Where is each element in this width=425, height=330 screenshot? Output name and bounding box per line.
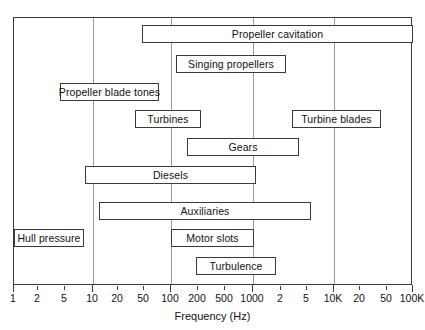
x-tick	[170, 285, 171, 292]
range-bar-label: Singing propellers	[188, 59, 274, 70]
range-bar: Turbines	[135, 110, 201, 128]
x-tick	[359, 286, 360, 290]
x-tick-label: 2	[277, 293, 283, 304]
x-tick-label: 5	[61, 293, 67, 304]
x-tick-label: 500	[215, 293, 233, 304]
x-axis-title: Frequency (Hz)	[0, 311, 425, 322]
range-bar-label: Propeller blade tones	[59, 87, 160, 98]
x-tick-label: 20	[353, 293, 365, 304]
x-tick	[306, 286, 307, 290]
x-tick-label: 1000	[240, 293, 263, 304]
x-tick	[224, 286, 225, 290]
gridline-10	[93, 18, 94, 284]
range-bar-label: Motor slots	[186, 233, 238, 244]
range-bar-label: Auxiliaries	[181, 206, 230, 217]
range-bar: Turbulence	[196, 257, 276, 275]
x-tick	[333, 285, 334, 292]
frequency-range-chart: Propeller cavitationSinging propellersPr…	[0, 0, 425, 330]
x-tick-label: 2	[34, 293, 40, 304]
range-bar-label: Gears	[228, 142, 257, 153]
x-tick-label: 10	[86, 293, 98, 304]
range-bar: Auxiliaries	[99, 202, 311, 220]
x-tick-label: 100K	[400, 293, 425, 304]
x-tick	[64, 286, 65, 290]
range-bar: Motor slots	[171, 229, 254, 247]
x-tick-label: 50	[380, 293, 392, 304]
x-tick	[386, 286, 387, 290]
x-tick-label: 50	[137, 293, 149, 304]
x-tick	[197, 286, 198, 290]
range-bar: Hull pressure	[14, 229, 84, 247]
range-bar-label: Turbine blades	[301, 114, 371, 125]
x-tick	[117, 286, 118, 290]
range-bar-label: Hull pressure	[17, 233, 80, 244]
range-bar: Turbine blades	[292, 110, 381, 128]
range-bar: Propeller cavitation	[142, 25, 413, 43]
x-tick	[143, 286, 144, 290]
x-tick	[37, 286, 38, 290]
x-tick	[92, 285, 93, 292]
x-tick	[13, 285, 14, 292]
x-tick-label: 1	[10, 293, 16, 304]
x-tick-label: 5	[303, 293, 309, 304]
x-tick-label: 10K	[324, 293, 343, 304]
range-bar: Diesels	[85, 166, 256, 184]
x-tick-label: 20	[111, 293, 123, 304]
range-bar-label: Turbulence	[209, 261, 262, 272]
plot-area: Propeller cavitationSinging propellersPr…	[13, 17, 412, 285]
x-axis: 12510205010020050010002510K2050100K Freq…	[0, 285, 425, 330]
x-tick	[252, 285, 253, 292]
range-bar-label: Diesels	[153, 170, 188, 181]
range-bar-label: Propeller cavitation	[232, 29, 323, 40]
x-tick	[412, 285, 413, 292]
range-bar-label: Turbines	[147, 114, 188, 125]
gridline-10000	[334, 18, 335, 284]
x-tick-label: 200	[188, 293, 206, 304]
range-bar: Singing propellers	[176, 55, 286, 73]
range-bar: Propeller blade tones	[60, 83, 159, 101]
range-bar: Gears	[187, 138, 299, 156]
x-tick	[280, 286, 281, 290]
x-tick-label: 100	[161, 293, 179, 304]
